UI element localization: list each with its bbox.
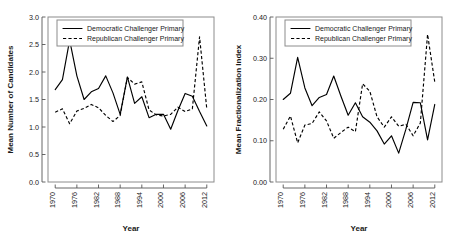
x-tick-label: 1976 (297, 192, 306, 208)
x-tick-label: 2006 (178, 192, 187, 208)
y-tick-label: 0.0 (29, 178, 39, 187)
y-tick-label: 1.0 (29, 123, 39, 132)
x-axis: 19701976198219881994200020062012 (48, 185, 209, 209)
x-tick-label: 1976 (70, 192, 79, 208)
x-tick-label: 2012 (200, 192, 209, 208)
series-line-democratic (283, 57, 435, 153)
x-tick-label: 2006 (406, 192, 415, 208)
y-tick-label: 0.40 (253, 13, 267, 22)
y-axis-title: Mean Number of Candidates (6, 45, 15, 154)
y-axis-title: Mean Fractionalization Index (234, 44, 243, 154)
x-tick-label: 1994 (362, 192, 371, 208)
x-tick-label: 1982 (319, 192, 328, 208)
series-line-republican (283, 34, 435, 142)
x-tick-label: 2012 (427, 192, 436, 208)
y-tick-label: 0.00 (253, 178, 267, 187)
series-group (283, 34, 435, 153)
legend-label: Republican Challenger Primary (87, 35, 184, 43)
x-tick-label: 2000 (384, 192, 393, 208)
y-tick-label: 3.0 (29, 13, 39, 22)
y-tick-label: 0.10 (253, 136, 267, 145)
x-tick-label: 1988 (341, 192, 350, 208)
chart-panel-right: 0.000.100.200.300.4019701976198219881994… (228, 0, 455, 248)
series-group (55, 37, 207, 129)
y-tick-label: 2.0 (29, 68, 39, 77)
figure-root: 0.00.51.01.52.02.53.01970197619821988199… (0, 0, 455, 248)
x-tick-label: 1970 (276, 192, 285, 208)
legend: Democratic Challenger PrimaryRepublican … (57, 20, 185, 46)
y-axis: 0.000.100.200.300.40 (253, 13, 274, 187)
x-axis-title: Year (123, 224, 140, 233)
x-tick-label: 1988 (113, 192, 122, 208)
legend-label: Democratic Challenger Primary (315, 25, 413, 33)
chart-right-svg: 0.000.100.200.300.4019701976198219881994… (228, 0, 455, 248)
y-tick-label: 1.5 (29, 95, 39, 104)
y-axis: 0.00.51.01.52.02.53.0 (29, 13, 46, 187)
y-tick-label: 0.20 (253, 95, 267, 104)
y-tick-label: 0.30 (253, 54, 267, 63)
x-tick-label: 1994 (135, 192, 144, 208)
chart-panel-left: 0.00.51.01.52.02.53.01970197619821988199… (0, 0, 228, 248)
x-tick-label: 2000 (156, 192, 165, 208)
legend: Democratic Challenger PrimaryRepublican … (285, 20, 413, 46)
x-tick-label: 1982 (92, 192, 101, 208)
series-line-democratic (55, 40, 207, 129)
legend-label: Republican Challenger Primary (315, 35, 412, 43)
legend-label: Democratic Challenger Primary (87, 25, 185, 33)
chart-left-svg: 0.00.51.01.52.02.53.01970197619821988199… (0, 0, 228, 248)
x-tick-label: 1970 (48, 192, 57, 208)
x-axis: 19701976198219881994200020062012 (276, 185, 437, 209)
y-tick-label: 2.5 (29, 40, 39, 49)
x-axis-title: Year (350, 224, 367, 233)
y-tick-label: 0.5 (29, 150, 39, 159)
